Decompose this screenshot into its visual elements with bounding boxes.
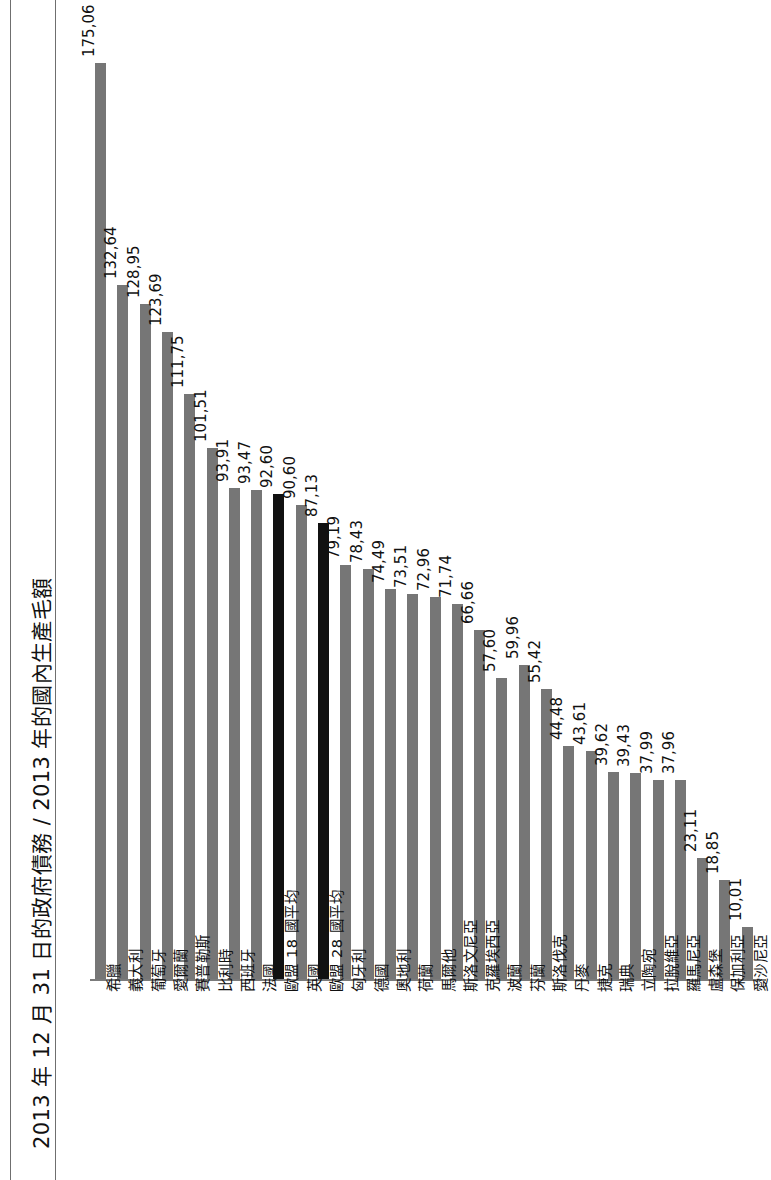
bar-value-label: 66,66 (463, 613, 474, 624)
bar-value-label: 43,61 (575, 734, 586, 745)
category-label: 克羅埃西亞 (486, 978, 500, 992)
bar-value-label: 39,43 (619, 756, 630, 767)
bar-value-label: 111,75 (173, 377, 184, 388)
page-title: 2013 年 12 月 31 日的政府債務 / 2013 年的國內生產毛額 (25, 0, 55, 1157)
bar-value-label: 10,01 (731, 910, 742, 921)
bar-value-label: 93,47 (240, 473, 251, 484)
category-label: 匈牙利 (352, 978, 366, 992)
bar-value-label: 90,60 (285, 488, 296, 499)
category-label: 愛沙尼亞 (754, 978, 768, 992)
category-label: 馬爾他 (442, 978, 456, 992)
category-label: 芬蘭 (531, 978, 545, 992)
category-label: 盧森堡 (709, 978, 723, 992)
title-rule-inner (55, 0, 56, 1180)
bar-value-label: 123,69 (151, 315, 162, 326)
category-label: 義大利 (129, 978, 143, 992)
category-label: 保加利亞 (731, 978, 745, 992)
bar-value-label: 39,62 (597, 755, 608, 766)
bar (452, 604, 463, 979)
title-rule-outer (10, 0, 11, 1180)
category-label: 西班牙 (241, 978, 255, 992)
bar (95, 63, 106, 979)
bar-highlighted (318, 523, 329, 979)
bar (251, 490, 262, 979)
category-label: 比利時 (219, 978, 233, 992)
bar (140, 304, 151, 979)
category-label: 荷蘭 (419, 978, 433, 992)
bar-value-label: 23,11 (686, 841, 697, 852)
bar-value-label: 44,48 (552, 729, 563, 740)
bar-highlighted (273, 494, 284, 979)
bar-value-label: 78,43 (352, 552, 363, 563)
category-label: 希臘 (107, 978, 121, 992)
category-label: 法國 (263, 978, 277, 992)
category-label: 丹麥 (575, 978, 589, 992)
category-label: 賽普勒斯 (196, 978, 210, 992)
bar-value-label: 132,64 (106, 268, 117, 279)
bar (430, 597, 441, 979)
bar-value-label: 57,60 (485, 661, 496, 672)
bar-value-label: 73,51 (396, 577, 407, 588)
category-label: 拉脫維亞 (665, 978, 679, 992)
bar (207, 448, 218, 979)
bar-value-label: 37,99 (642, 763, 653, 774)
category-label: 捷克 (598, 978, 612, 992)
category-label: 英國 (308, 978, 322, 992)
bar-value-label: 74,49 (374, 572, 385, 583)
category-label: 歐盟 28 國平均 (330, 978, 344, 992)
category-label: 波蘭 (508, 978, 522, 992)
bar (519, 665, 530, 979)
category-label: 歐盟 18 國平均 (285, 978, 299, 992)
category-label: 德國 (375, 978, 389, 992)
bar-value-label: 72,96 (419, 580, 430, 591)
category-label: 葡萄牙 (152, 978, 166, 992)
bar-value-label: 71,74 (441, 587, 452, 598)
bar-value-label: 37,96 (664, 763, 675, 774)
category-label: 羅馬尼亞 (687, 978, 701, 992)
bar-value-label: 79,19 (329, 548, 340, 559)
bar (608, 772, 619, 979)
bar-value-label: 55,42 (530, 672, 541, 683)
bar-value-label: 18,85 (708, 863, 719, 874)
category-label: 愛爾蘭 (174, 978, 188, 992)
bar (385, 589, 396, 979)
bar-value-label: 92,60 (262, 477, 273, 488)
category-label: 斯洛文尼亞 (464, 978, 478, 992)
bar (586, 751, 597, 979)
bar (363, 569, 374, 979)
bar (117, 285, 128, 979)
category-label: 立陶宛 (642, 978, 656, 992)
bar (162, 332, 173, 979)
bar-chart-plot-area: 175,06132,64128,95123,69111,75101,5193,9… (72, 0, 771, 1180)
bar (630, 773, 641, 979)
category-label: 奧地利 (397, 978, 411, 992)
bar-value-label: 101,51 (196, 431, 207, 442)
bar-value-label: 93,91 (218, 471, 229, 482)
bar-value-label: 128,95 (129, 287, 140, 298)
category-label: 瑞典 (620, 978, 634, 992)
bar (184, 394, 195, 979)
bar (407, 594, 418, 979)
bar-value-label: 175,06 (84, 46, 95, 57)
bar-value-label: 59,96 (508, 648, 519, 659)
bar (229, 488, 240, 979)
bar-value-label: 87,13 (307, 506, 318, 517)
category-label: 斯洛伐克 (553, 978, 567, 992)
title-block: 2013 年 12 月 31 日的政府債務 / 2013 年的國內生產毛額 (0, 0, 72, 1180)
